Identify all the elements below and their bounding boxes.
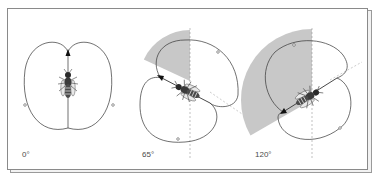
direction-marker [177,138,180,141]
angle-sector [241,29,312,136]
arrow-icon [66,49,71,56]
panel-0deg [24,42,115,129]
direction-marker [217,51,220,54]
bee-icon [58,69,78,98]
direction-marker [339,127,342,130]
panel-label-120: 120° [255,150,272,159]
arrow-icon [157,75,164,81]
direction-line [210,92,245,116]
direction-marker [112,104,115,107]
bee-icon [169,75,204,105]
panel-label-0: 0° [22,150,30,159]
direction-marker [293,44,296,47]
panel-120deg [241,28,362,160]
dance-diagrams [0,0,375,177]
angle-sector [144,30,190,81]
direction-marker [24,104,27,107]
panel-65deg [140,28,245,160]
panel-label-65: 65° [142,150,154,159]
